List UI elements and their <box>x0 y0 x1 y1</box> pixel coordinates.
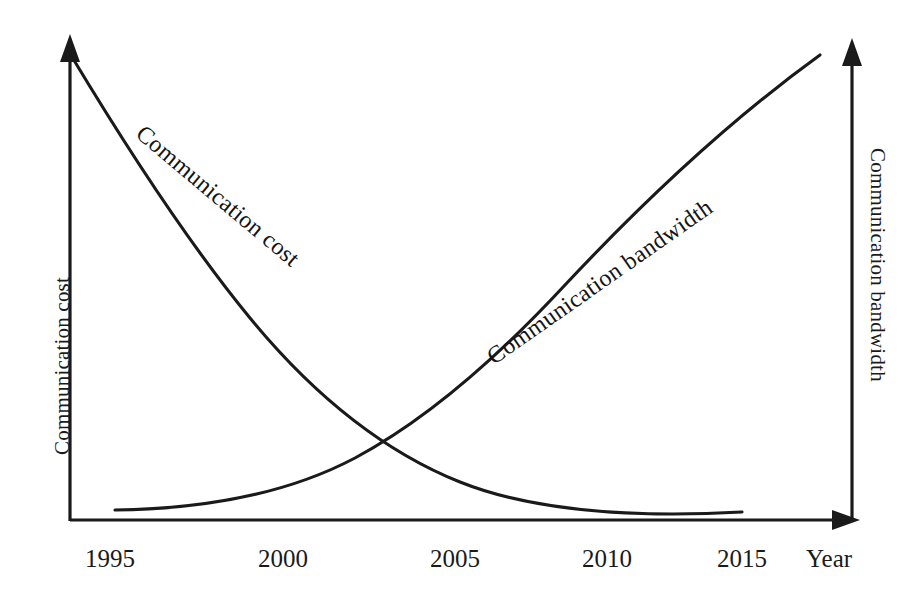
y-axis-right-arrow-icon <box>842 38 862 66</box>
y-axis-left-arrow-icon <box>60 34 80 62</box>
x-axis-title: Year <box>806 545 852 573</box>
x-tick-label-1995: 1995 <box>85 545 135 573</box>
x-tick-label-2015: 2015 <box>717 545 767 573</box>
chart-canvas: Communication cost Communication bandwid… <box>0 0 906 607</box>
x-tick-label-2005: 2005 <box>430 545 480 573</box>
curve-communication-cost <box>72 57 742 514</box>
y-axis-left-title: Communication cost <box>50 277 75 455</box>
y-axis-right-title: Communication bandwidth <box>865 148 890 382</box>
x-tick-label-2000: 2000 <box>258 545 308 573</box>
x-tick-label-2010: 2010 <box>582 545 632 573</box>
chart-plot-area <box>0 0 906 607</box>
x-axis-arrow-icon <box>832 510 860 530</box>
